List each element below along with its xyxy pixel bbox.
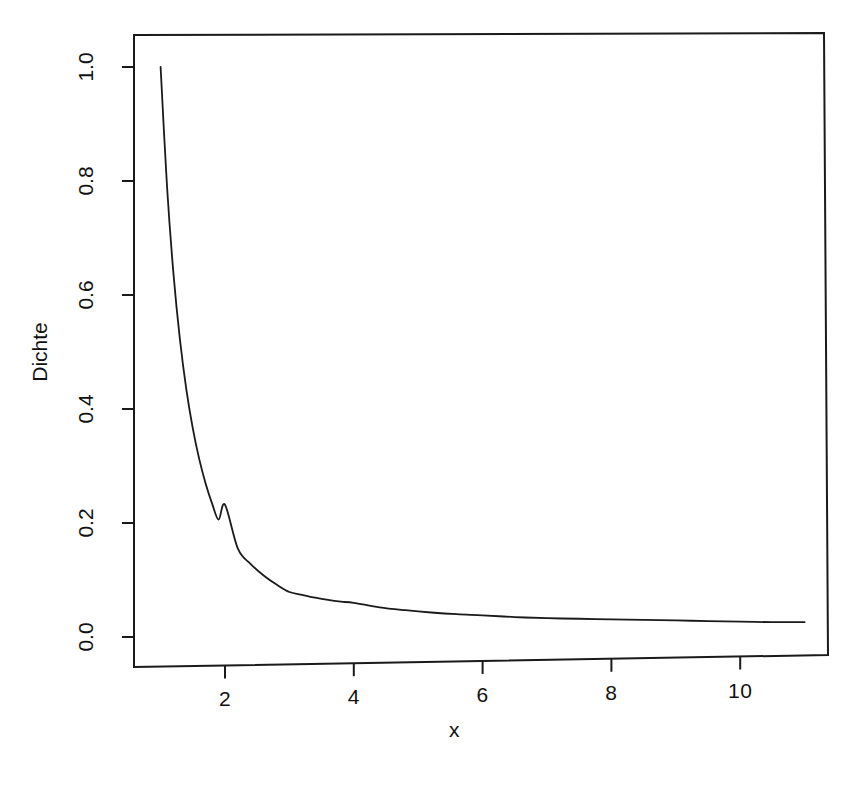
y-axis-ticks <box>122 67 134 637</box>
x-tick-label: 6 <box>453 683 513 707</box>
plot-canvas <box>0 0 858 792</box>
y-tick-label: 0.4 <box>74 381 98 437</box>
plot-frame-box <box>134 33 828 667</box>
y-tick-label: 0.8 <box>74 153 98 209</box>
x-tick-label: 10 <box>710 679 770 703</box>
y-axis-title: Dichte <box>28 307 52 397</box>
y-tick-label: 1.0 <box>74 39 98 95</box>
x-axis-ticks <box>225 657 740 679</box>
x-axis-title: x <box>449 718 460 742</box>
y-tick-label: 0.0 <box>74 609 98 665</box>
chart-figure: 0.00.20.40.60.81.0 246810 Dichte x <box>0 0 858 792</box>
density-curve-line <box>161 67 805 622</box>
x-tick-label: 8 <box>581 681 641 705</box>
y-tick-label: 0.6 <box>74 267 98 323</box>
y-tick-label: 0.2 <box>74 495 98 551</box>
x-tick-label: 4 <box>324 685 384 709</box>
x-tick-label: 2 <box>195 687 255 711</box>
